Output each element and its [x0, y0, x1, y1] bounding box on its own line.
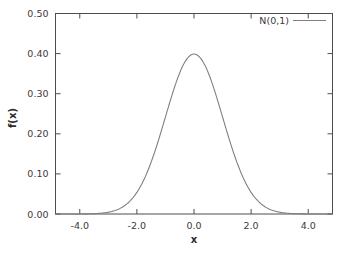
x-axis-title: x — [191, 234, 198, 245]
chart-figure: -4.0-2.00.02.04.0 0.000.100.200.300.400.… — [0, 0, 343, 255]
x-tick-label: 2.0 — [244, 220, 259, 231]
x-tick-label: 4.0 — [301, 220, 316, 231]
chart-background — [0, 0, 343, 255]
y-tick-label: 0.10 — [27, 168, 48, 179]
y-axis-title: f(x) — [7, 108, 18, 128]
y-tick-label: 0.30 — [27, 88, 48, 99]
y-tick-label: 0.40 — [27, 48, 48, 59]
legend-entry-label: N(0,1) — [259, 15, 289, 26]
x-tick-label: -2.0 — [128, 220, 147, 231]
y-tick-label: 0.20 — [27, 128, 48, 139]
y-tick-label: 0.50 — [27, 8, 48, 19]
x-tick-label: -4.0 — [70, 220, 89, 231]
normal-distribution-chart: -4.0-2.00.02.04.0 0.000.100.200.300.400.… — [0, 0, 343, 255]
y-tick-label: 0.00 — [27, 209, 48, 220]
x-tick-label: 0.0 — [186, 220, 201, 231]
